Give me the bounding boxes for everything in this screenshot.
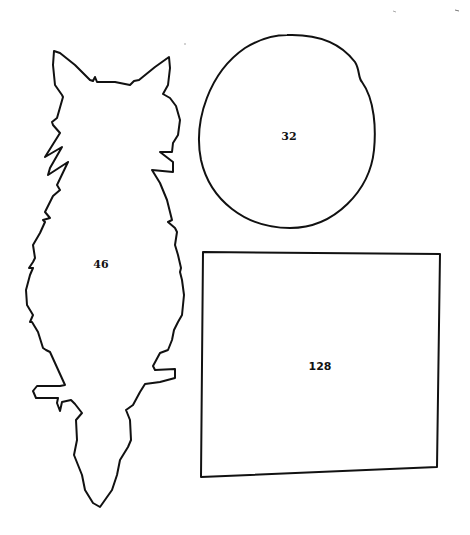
rectangle-label: 128	[309, 360, 332, 373]
circle-label: 32	[281, 130, 296, 143]
canvas: 46 32 128	[0, 0, 470, 535]
speck	[184, 43, 186, 45]
speck	[455, 10, 459, 11]
cat-label: 46	[93, 258, 109, 271]
speck	[393, 11, 396, 12]
cat-shape	[26, 51, 184, 507]
